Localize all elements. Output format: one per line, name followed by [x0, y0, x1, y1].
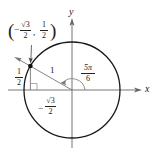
horizontal-leg-sign: −: [38, 104, 43, 113]
vertical-leg-numerator: 1: [15, 68, 23, 77]
x-sign: −: [14, 25, 19, 34]
comma: ,: [33, 28, 35, 37]
point-marker: [28, 64, 33, 69]
vertical-leg-denominator: 2: [15, 78, 23, 87]
angle-label: 5π 6: [81, 64, 95, 83]
point-coordinates-label: ( − √3 2 , 1 2 ): [8, 20, 68, 42]
right-angle-marker: [30, 84, 37, 91]
ray-arrow-icon: [14, 57, 22, 62]
horizontal-leg-denominator: 2: [45, 107, 56, 116]
x-numerator: √3: [20, 21, 31, 30]
angle-denominator: 6: [81, 74, 95, 83]
vertical-leg-label: 1 2: [15, 68, 23, 87]
y-axis-label: y: [69, 7, 73, 17]
y-numerator: 1: [40, 21, 48, 30]
x-denominator: 2: [20, 31, 31, 40]
x-axis: [8, 88, 142, 93]
x-axis-label: x: [145, 84, 149, 94]
horizontal-leg-numerator: √3: [45, 97, 56, 106]
close-paren: ): [50, 21, 56, 40]
y-denominator: 2: [40, 31, 48, 40]
radius-label: 1: [50, 66, 55, 75]
angle-numerator: 5π: [81, 64, 95, 73]
y-coordinate: 1 2: [40, 21, 48, 40]
x-coordinate: √3 2: [20, 21, 31, 40]
y-axis: [70, 18, 75, 148]
horizontal-leg-label: √3 2: [45, 97, 56, 116]
